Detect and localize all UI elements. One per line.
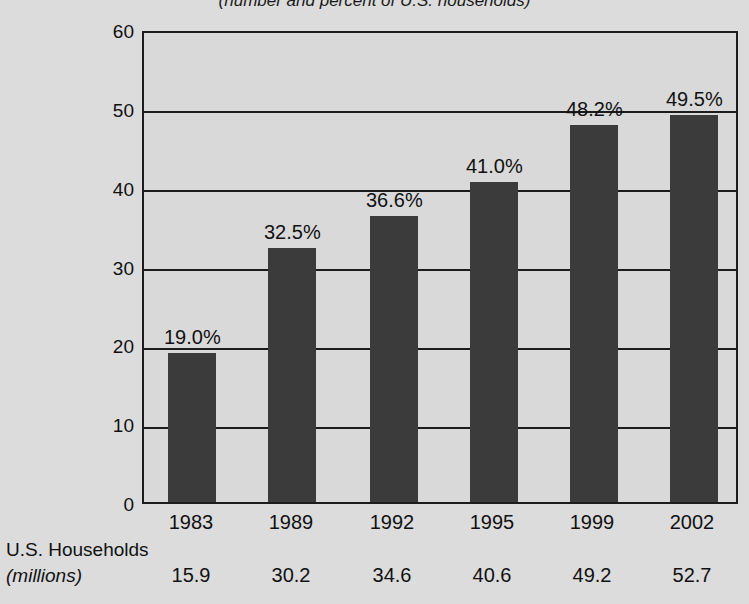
gridline-50 (144, 111, 736, 113)
y-tick-label-60: 60 (90, 22, 134, 41)
bar-1999[interactable] (570, 125, 618, 502)
x-tick-label-1989: 1989 (236, 512, 346, 532)
households-value-2002: 52.7 (637, 565, 747, 585)
y-tick-label-20: 20 (90, 337, 134, 356)
bar-label-1989: 32.5% (264, 222, 321, 242)
households-value-1983: 15.9 (136, 565, 246, 585)
households-value-1992: 34.6 (337, 565, 447, 585)
households-value-1989: 30.2 (236, 565, 346, 585)
bar-1992[interactable] (370, 216, 418, 502)
x-tick-label-2002: 2002 (637, 512, 747, 532)
y-tick-label-0: 0 (90, 495, 134, 514)
gridline-40 (144, 190, 736, 192)
bar-1995[interactable] (470, 182, 518, 502)
y-tick-label-50: 50 (90, 101, 134, 120)
households-values-row: 15.9 30.2 34.6 40.6 49.2 52.7 (0, 565, 749, 593)
bar-2002[interactable] (670, 115, 718, 502)
bar-1989[interactable] (268, 248, 316, 502)
x-tick-label-1983: 1983 (136, 512, 246, 532)
bar-label-1992: 36.6% (366, 190, 423, 210)
gridline-20 (144, 348, 736, 350)
households-row-header-line1: U.S. Households (6, 537, 149, 563)
x-tick-label-1999: 1999 (537, 512, 647, 532)
y-tick-label-10: 10 (90, 416, 134, 435)
bar-label-1999: 48.2% (566, 99, 623, 119)
y-tick-label-30: 30 (90, 259, 134, 278)
plot-area: 19.0% 32.5% 36.6% 41.0% 48.2% 49.5% (142, 31, 738, 504)
gridline-30 (144, 269, 736, 271)
y-tick-label-40: 40 (90, 180, 134, 199)
x-tick-label-1995: 1995 (437, 512, 547, 532)
households-value-1999: 49.2 (537, 565, 647, 585)
households-value-1995: 40.6 (437, 565, 547, 585)
bar-label-1995: 41.0% (466, 156, 523, 176)
bar-label-2002: 49.5% (666, 89, 723, 109)
bar-1983[interactable] (168, 353, 216, 502)
x-axis: 1983 1989 1992 1995 1999 2002 (0, 512, 749, 540)
x-tick-label-1992: 1992 (337, 512, 447, 532)
bar-label-1983: 19.0% (164, 327, 221, 347)
gridline-10 (144, 427, 736, 429)
